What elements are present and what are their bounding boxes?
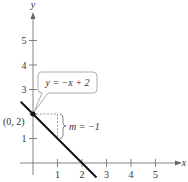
- y-axis-arrow-icon: [31, 12, 36, 19]
- graph: 1 2 3 4 5 x 1 3 4 5 y m = −1 (0, 2) y = …: [0, 0, 188, 182]
- equation-label: y = −x + 2: [44, 77, 89, 88]
- point-label: (0, 2): [3, 116, 25, 128]
- slope-label: m = −1: [69, 121, 100, 132]
- y-tick-label: 4: [22, 60, 27, 71]
- y-axis-label: y: [30, 0, 36, 10]
- y-tick-label: 3: [22, 84, 27, 95]
- y-tick-label: 1: [22, 133, 27, 144]
- brace: [60, 114, 66, 139]
- x-tick-label: 2: [80, 169, 85, 180]
- x-tick-label: 1: [55, 169, 60, 180]
- x-tick-label: 5: [153, 169, 158, 180]
- x-axis-label: x: [181, 157, 187, 168]
- intercept-point: [31, 112, 36, 117]
- y-tick-label: 5: [22, 35, 27, 46]
- x-tick-label: 4: [129, 169, 134, 180]
- x-tick-label: 3: [104, 169, 109, 180]
